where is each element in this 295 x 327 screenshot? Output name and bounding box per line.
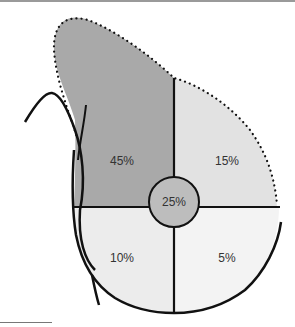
label-lower-inner: 5% [218, 251, 236, 265]
label-lower-outer: 10% [110, 251, 134, 265]
quadrant-diagram: 45% 15% 25% 10% 5% [0, 0, 295, 327]
label-upper-outer: 45% [110, 154, 134, 168]
footer-rule [0, 322, 52, 323]
label-central: 25% [162, 195, 186, 209]
label-upper-inner: 15% [215, 154, 239, 168]
